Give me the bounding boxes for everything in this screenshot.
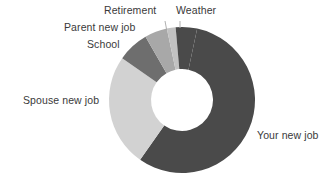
slice-label-parent-new-job: Parent new job — [64, 22, 135, 34]
leader-line-retirement — [165, 21, 167, 29]
donut-chart: Weather Retirement Parent new job School… — [0, 0, 335, 188]
slice-label-school: School — [87, 39, 120, 51]
slice-label-weather: Weather — [176, 5, 216, 17]
slice-label-retirement: Retirement — [104, 5, 156, 17]
slice-label-your-new-job: Your new job — [257, 130, 319, 142]
donut-slices-group — [109, 27, 255, 173]
slice-label-spouse-new-job: Spouse new job — [23, 95, 99, 107]
